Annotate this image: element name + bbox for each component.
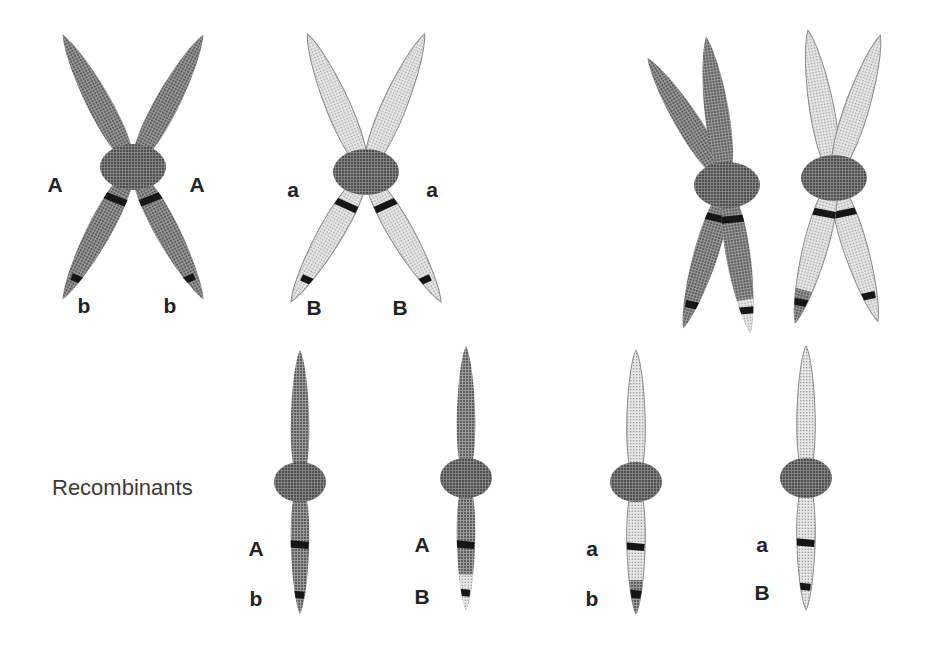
centromere	[333, 149, 399, 195]
centromere	[274, 462, 326, 502]
allele-label-a-left: a	[287, 178, 299, 201]
allele-label-lower: b	[250, 587, 263, 610]
chromosome-recombination-figure: A A b b	[0, 0, 934, 653]
allele-label-upper: A	[248, 537, 263, 560]
allele-label-upper: a	[756, 533, 768, 556]
centromere	[100, 144, 166, 190]
centromere	[780, 458, 832, 498]
centromere-dark-homolog	[694, 162, 760, 208]
allele-label-B-right: B	[392, 296, 407, 319]
centromere	[440, 458, 492, 498]
allele-label-lower: B	[414, 585, 429, 608]
allele-label-A-right: A	[189, 173, 204, 196]
allele-label-upper: a	[586, 537, 598, 560]
allele-label-upper: A	[414, 533, 429, 556]
allele-label-b-right: b	[164, 294, 177, 317]
centromere	[610, 462, 662, 502]
allele-label-lower: b	[586, 587, 599, 610]
recombinants-label: Recombinants	[52, 475, 193, 500]
centromere-light-homolog	[801, 155, 867, 201]
allele-label-lower: B	[754, 581, 769, 604]
allele-label-A-left: A	[47, 173, 62, 196]
allele-label-b-left: b	[78, 294, 91, 317]
allele-label-a-right: a	[426, 178, 438, 201]
allele-label-B-left: B	[306, 296, 321, 319]
